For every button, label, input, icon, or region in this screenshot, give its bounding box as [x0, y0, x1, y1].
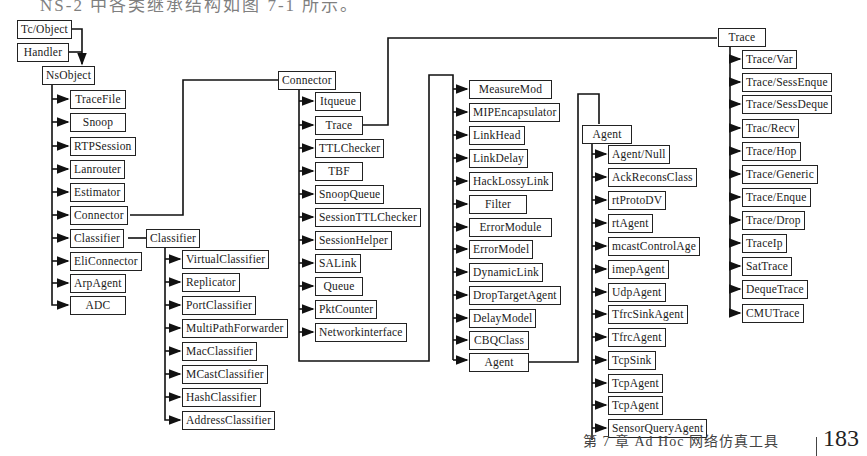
- class-node-sessionttlchecker: SessionTTLChecker: [315, 208, 421, 227]
- class-node-snoopqueue: SnoopQueue: [315, 185, 384, 204]
- class-node-errormodel: ErrorModel: [469, 240, 533, 259]
- class-node-pktcounter: PktCounter: [315, 300, 377, 319]
- class-node-salink: SALink: [315, 254, 361, 273]
- running-header-chapter: 第 7 章 Ad Hoc 网络仿真工具: [583, 430, 779, 450]
- class-node-sattrace: SatTrace: [742, 257, 792, 276]
- class-node-multipathforwarder: MultiPathForwarder: [182, 319, 288, 338]
- class-node-mipencapsulator: MIPEncapsulator: [469, 103, 560, 122]
- class-node-linkhead: LinkHead: [469, 126, 525, 145]
- page-divider: [816, 437, 817, 456]
- class-node-trace: Trace: [718, 28, 766, 47]
- class-node-connector-link: Connector: [70, 206, 128, 225]
- class-node-estimator: Estimator: [70, 183, 125, 202]
- class-node-eliconnector: EliConnector: [70, 252, 142, 271]
- class-node-mcastclassifier: MCastClassifier: [182, 365, 268, 384]
- class-node-errormodule: ErrorModule: [469, 218, 552, 237]
- class-node-handler: Handler: [17, 43, 69, 62]
- class-node-sessionhelper: SessionHelper: [315, 231, 392, 250]
- class-node-trac-recv: Trac/Recv: [742, 119, 799, 138]
- class-node-networkinterface: Networkinterface: [315, 323, 407, 342]
- class-node-agent: Agent: [582, 125, 632, 144]
- class-node-delaymodel: DelayModel: [469, 309, 536, 328]
- class-node-hashclassifier: HashClassifier: [182, 388, 261, 407]
- class-node-rtprotodv: rtProtoDV: [608, 191, 666, 210]
- class-node-ttlchecker: TTLChecker: [315, 139, 384, 158]
- class-node-trace-var: Trace/Var: [742, 50, 797, 69]
- class-node-macclassifier: MacClassifier: [182, 342, 257, 361]
- class-node-linkdelay: LinkDelay: [469, 149, 528, 168]
- class-node-tbf: TBF: [315, 162, 363, 181]
- class-node-tfrcsinkagent: TfrcSinkAgent: [608, 305, 688, 324]
- class-node-udpagent: UdpAgent: [608, 283, 666, 302]
- class-node-tcpagent: TcpAgent: [608, 374, 663, 393]
- class-node-addressclassifier: AddressClassifier: [182, 411, 275, 430]
- class-node-filter: Filter: [469, 195, 527, 214]
- page-number: 183: [823, 425, 859, 452]
- class-node-snoop: Snoop: [70, 113, 126, 132]
- class-node-measuremod: MeasureMod: [469, 80, 552, 99]
- class-node-tcpsink: TcpSink: [608, 351, 656, 370]
- class-node-trace-drop: Trace/Drop: [742, 211, 805, 230]
- class-node-agent-null: Agent/Null: [608, 145, 670, 164]
- class-node-traceip: TraceIp: [742, 234, 787, 253]
- class-node-dynamiclink: DynamicLink: [469, 263, 543, 282]
- class-node-classifier-link: Classifier: [70, 229, 124, 248]
- class-node-cmutrace: CMUTrace: [742, 304, 804, 323]
- class-node-droptargetagent: DropTargetAgent: [469, 286, 561, 305]
- class-node-cbqclass: CBQClass: [469, 331, 529, 350]
- class-node-tfrcagent: TfrcAgent: [608, 328, 666, 347]
- class-node-connector: Connector: [278, 71, 336, 90]
- class-node-replicator: Replicator: [182, 273, 240, 292]
- class-node-rtpsession: RTPSession: [70, 137, 136, 156]
- class-node-trace-sessdeque: Trace/SessDeque: [742, 95, 832, 114]
- class-node-agent-link: Agent: [469, 353, 529, 372]
- class-node-portclassifier: PortClassifier: [182, 296, 256, 315]
- class-node-dequetrace: DequeTrace: [742, 280, 808, 299]
- class-node-trace-generic: Trace/Generic: [742, 165, 818, 184]
- class-node-tcpagent-2: TcpAgent: [608, 396, 663, 415]
- class-node-lanrouter: Lanrouter: [70, 160, 125, 179]
- class-node-nsobject: NsObject: [42, 66, 95, 85]
- class-node-trace-link: Trace: [315, 116, 363, 135]
- class-node-queue: Queue: [315, 277, 363, 296]
- class-node-hacklossylink: HackLossyLink: [469, 172, 553, 191]
- class-node-rtagent: rtAgent: [608, 214, 653, 233]
- class-node-classifier: Classifier: [146, 229, 200, 248]
- class-node-imepagent: imepAgent: [608, 260, 669, 279]
- class-node-trace-hop: Trace/Hop: [742, 142, 801, 161]
- connector-lines: [0, 0, 867, 456]
- class-node-adc: ADC: [70, 296, 126, 315]
- class-node-arpagent: ArpAgent: [70, 274, 126, 293]
- class-node-ackreconsclass: AckReconsClass: [608, 168, 697, 187]
- class-node-trace-sessenque: Trace/SessEnque: [742, 73, 832, 92]
- class-node-itqueue: Itqueue: [315, 92, 361, 111]
- class-node-tcl-object: Tc/Object: [17, 20, 72, 39]
- class-node-virtualclassifier: VirtualClassifier: [182, 250, 269, 269]
- class-node-mcastcontrolagent: mcastControlAge: [608, 237, 700, 256]
- class-node-trace-enque: Trace/Enque: [742, 188, 811, 207]
- class-node-tracefile: TraceFile: [70, 90, 126, 109]
